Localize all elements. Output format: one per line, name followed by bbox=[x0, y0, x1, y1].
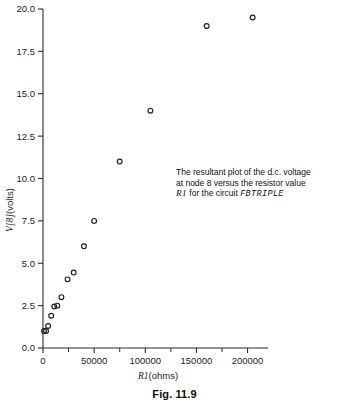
data-point bbox=[49, 313, 54, 318]
data-point bbox=[55, 303, 60, 308]
x-axis-tick-label: 50000 bbox=[81, 355, 107, 366]
data-point bbox=[148, 108, 153, 113]
x-axis-tick-label: 200000 bbox=[232, 355, 264, 366]
data-point bbox=[92, 218, 97, 223]
y-axis-tick-label: 0.0 bbox=[22, 342, 35, 353]
y-axis-tick-label: 5.0 bbox=[22, 258, 35, 269]
x-axis-tick-label: 100000 bbox=[129, 355, 161, 366]
y-axis-ticks bbox=[38, 9, 43, 348]
annotation-line-2: at node 8 versus the resistor value bbox=[176, 178, 306, 188]
data-point bbox=[82, 244, 87, 249]
x-axis-tick-label: 0 bbox=[40, 355, 45, 366]
data-point bbox=[117, 159, 122, 164]
data-point bbox=[250, 15, 255, 20]
y-axis-tick-label: 2.5 bbox=[22, 300, 35, 311]
y-axis-tick-label: 17.5 bbox=[17, 46, 36, 57]
data-point bbox=[204, 24, 209, 29]
data-point bbox=[71, 270, 76, 275]
annotation-text: The resultant plot of the d.c. voltage a… bbox=[176, 167, 344, 200]
data-point bbox=[59, 295, 64, 300]
annotation-circuit-name: FBTRIPLE bbox=[240, 189, 284, 199]
y-axis-tick-labels: 0.02.55.07.510.012.515.017.520.0 bbox=[17, 3, 36, 353]
y-axis-tick-label: 10.0 bbox=[17, 173, 36, 184]
y-axis-tick-label: 15.0 bbox=[17, 88, 36, 99]
figure-caption: Fig. 11.9 bbox=[0, 388, 349, 400]
data-point bbox=[46, 324, 51, 329]
x-axis-tick-labels: 050000100000150000200000 bbox=[40, 355, 263, 366]
y-axis-tick-label: 7.5 bbox=[22, 215, 35, 226]
y-axis-title: V[8](volts) bbox=[4, 188, 15, 232]
x-axis-ticks bbox=[43, 348, 248, 353]
annotation-line-3-mid: for the circuit bbox=[187, 188, 240, 198]
y-axis-tick-label: 20.0 bbox=[17, 3, 36, 14]
x-axis-tick-label: 150000 bbox=[181, 355, 213, 366]
annotation-line-1: The resultant plot of the d.c. voltage bbox=[176, 167, 311, 177]
annotation-resistor-var: R1 bbox=[176, 188, 187, 198]
x-axis-title: R1(ohms) bbox=[137, 370, 178, 381]
y-axis-tick-label: 12.5 bbox=[17, 131, 36, 142]
figure-container: 0.02.55.07.510.012.515.017.520.0 0500001… bbox=[0, 0, 349, 414]
scatter-plot: 0.02.55.07.510.012.515.017.520.0 0500001… bbox=[0, 0, 349, 414]
data-point bbox=[65, 277, 70, 282]
